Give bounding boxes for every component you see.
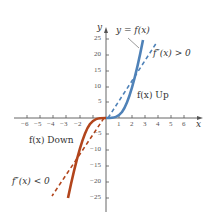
x-tick-label: 4 (156, 120, 160, 128)
y-tick-label: 10 (94, 82, 101, 90)
x-tick-label: 2 (130, 120, 134, 128)
chart-plot (0, 0, 215, 219)
label-pointer (128, 38, 139, 48)
concave-up-label: f(x) Up (137, 90, 169, 100)
x-tick-label: −4 (47, 120, 54, 128)
x-tick-label: −5 (34, 120, 41, 128)
curve-concave-up (106, 40, 143, 118)
concave-up-condition: f″(x) > 0 (153, 48, 191, 58)
x-tick-label: 3 (143, 120, 147, 128)
x-tick-label: −2 (74, 120, 81, 128)
y-axis-arrow-icon (104, 27, 108, 33)
concave-down-label: f(x) Down (29, 135, 73, 145)
x-tick-label: −6 (21, 120, 28, 128)
y-axis-label: y (97, 22, 102, 32)
concavity-chart: −6 −5 −4 −3 −2 1 2 3 4 5 6 25 20 15 10 5… (0, 0, 215, 219)
x-tick-label: 1 (117, 120, 121, 128)
y-tick-label: 5 (98, 97, 102, 105)
curve-label: y = f(x) (116, 25, 150, 35)
y-tick-label: −25 (90, 193, 101, 201)
y-tick-label: −10 (90, 145, 101, 153)
y-tick-label: 15 (94, 66, 101, 74)
x-tick-label: −3 (60, 120, 67, 128)
x-axis-label: x (196, 119, 201, 129)
x-tick-label: 5 (169, 120, 173, 128)
x-tick-label: 6 (182, 120, 186, 128)
tangent-line-up (108, 42, 157, 118)
y-tick-label: −5 (94, 129, 101, 137)
concave-down-condition: f″(x) < 0 (12, 176, 50, 186)
y-tick-label: −15 (90, 161, 101, 169)
y-tick-label: −20 (90, 177, 101, 185)
y-tick-label: 20 (94, 50, 101, 58)
y-tick-label: 25 (94, 34, 101, 42)
